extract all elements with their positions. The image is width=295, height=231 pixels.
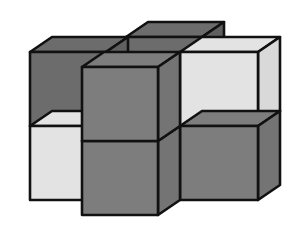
cube-stack-svg (0, 0, 295, 231)
cube-stack-diagram (0, 0, 295, 231)
right-bottom-side-face (258, 111, 280, 200)
front-top-front-face (82, 67, 158, 141)
front-top-side-face (158, 52, 180, 141)
front-bottom-front-face (82, 141, 158, 215)
right-bottom-front-face (180, 126, 258, 200)
